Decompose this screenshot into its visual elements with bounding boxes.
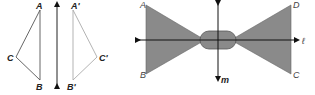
label-l: ℓ [301,36,305,46]
label-b: B [36,82,43,92]
label-c-prime: C' [99,53,108,63]
triangle-abc [16,10,40,80]
triangle-abc-prime [73,10,97,80]
left-figure: A B C A' B' C' [7,1,108,92]
reflection-diagram: A B C A' B' C' A B C D ℓ m [0,0,315,95]
label-b-prime: B' [67,82,76,92]
label-a: A [139,0,146,10]
label-a: A [35,1,43,11]
label-c: C [293,70,300,80]
right-figure: A B C D ℓ m [138,0,305,85]
label-b: B [140,70,146,80]
label-d: D [293,0,300,10]
label-m: m [221,75,229,85]
label-c: C [7,53,14,63]
label-a-prime: A' [70,1,80,11]
